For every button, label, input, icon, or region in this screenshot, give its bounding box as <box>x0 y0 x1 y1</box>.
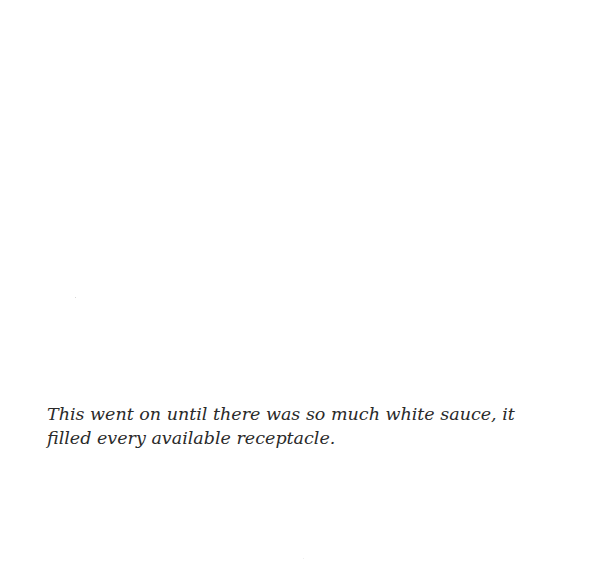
page-caption: This went on until there was so much whi… <box>47 402 577 450</box>
caption-line-2: filled every available receptacle. <box>47 426 577 450</box>
paper-speck <box>75 297 76 298</box>
caption-line-1: This went on until there was so much whi… <box>47 402 577 426</box>
book-page: This went on until there was so much whi… <box>0 0 596 563</box>
paper-speck <box>303 558 304 559</box>
